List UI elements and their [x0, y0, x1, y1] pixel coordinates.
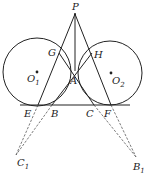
label-p: P — [71, 1, 79, 12]
segment-pe — [38, 14, 75, 105]
label-b: B — [50, 108, 58, 119]
label-c: C — [86, 108, 94, 119]
center-dot-o1 — [36, 71, 39, 74]
label-a: A — [69, 75, 77, 86]
label-b1: B1 — [132, 161, 145, 175]
point-dot-p — [74, 13, 76, 15]
label-c1: C1 — [17, 157, 29, 171]
label-o1: O1 — [27, 73, 40, 87]
label-h: H — [93, 49, 103, 60]
label-f: F — [103, 108, 112, 119]
label-g: G — [48, 47, 56, 58]
center-dot-o2 — [110, 72, 113, 75]
label-e: E — [23, 108, 32, 119]
geometry-diagram: P G H A E B C F O1 O2 C1 B1 — [0, 0, 157, 184]
dashed-b-c1 — [16, 105, 52, 155]
segment-pf — [75, 14, 111, 105]
label-o2: O2 — [112, 75, 125, 89]
